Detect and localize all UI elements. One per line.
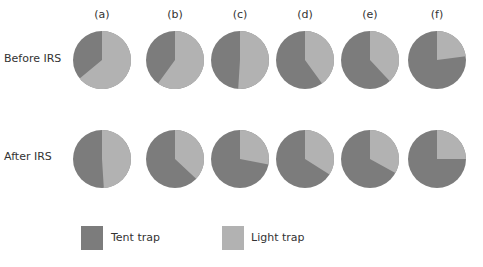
pie-after-a bbox=[73, 130, 131, 188]
legend-tent-trap-label: Tent trap bbox=[111, 231, 160, 244]
pie-after-d bbox=[276, 130, 334, 188]
pie-before-d bbox=[276, 31, 334, 89]
legend-light-trap-swatch bbox=[222, 226, 244, 250]
light-trap-slice bbox=[240, 130, 269, 164]
pie-before-e bbox=[341, 31, 399, 89]
pie-before-b bbox=[146, 31, 204, 89]
pie-after-e bbox=[341, 130, 399, 188]
pie-after-b bbox=[146, 130, 204, 188]
light-trap-slice bbox=[437, 31, 466, 60]
legend-tent-trap-swatch bbox=[81, 226, 103, 250]
pie-after-f bbox=[408, 130, 466, 188]
light-trap-slice bbox=[437, 130, 466, 159]
legend-light-trap-label: Light trap bbox=[251, 231, 305, 244]
pie-before-f bbox=[408, 31, 466, 89]
pie-before-a bbox=[73, 31, 131, 89]
light-trap-slice bbox=[238, 31, 269, 89]
pie-before-c bbox=[211, 31, 269, 89]
pie-after-c bbox=[211, 130, 269, 188]
light-trap-slice bbox=[102, 130, 131, 188]
